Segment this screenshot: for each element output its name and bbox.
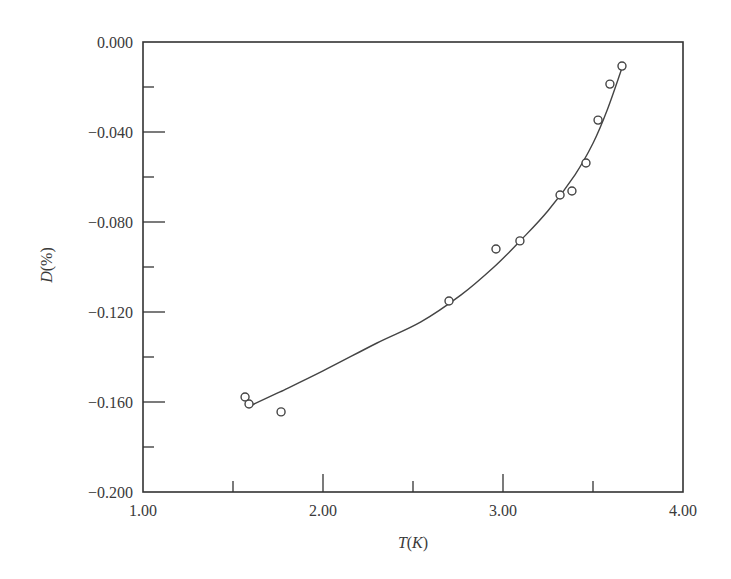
data-point-marker — [277, 408, 285, 416]
data-point-marker — [445, 297, 453, 305]
data-point-marker — [516, 237, 524, 245]
data-point-marker — [492, 245, 500, 253]
x-axis-ticks: 1.002.003.004.00 — [129, 474, 697, 519]
y-tick-label: −0.160 — [88, 394, 133, 411]
y-tick-label: 0.000 — [97, 34, 133, 51]
x-tick-label: 2.00 — [309, 502, 337, 519]
fit-curve-path — [250, 68, 622, 406]
data-point-marker — [556, 191, 564, 199]
data-point-marker — [245, 400, 253, 408]
x-tick-label: 1.00 — [129, 502, 157, 519]
y-tick-label: −0.080 — [88, 214, 133, 231]
y-tick-label: −0.200 — [88, 484, 133, 501]
data-point-marker — [606, 80, 614, 88]
y-axis-label: D(%) — [38, 247, 56, 284]
data-point-marker — [568, 187, 576, 195]
y-axis-ticks: 0.000−0.040−0.080−0.120−0.160−0.200 — [88, 34, 165, 501]
y-tick-label: −0.040 — [88, 124, 133, 141]
plot-frame — [143, 42, 683, 492]
chart: 0.000−0.040−0.080−0.120−0.160−0.200 1.00… — [0, 0, 731, 579]
data-points — [241, 62, 626, 416]
y-tick-label: −0.120 — [88, 304, 133, 321]
data-point-marker — [594, 116, 602, 124]
fit-curve — [250, 68, 622, 406]
data-point-marker — [618, 62, 626, 70]
data-point-marker — [582, 159, 590, 167]
plot-border — [143, 42, 683, 492]
x-axis-label: T(K) — [398, 534, 428, 552]
x-tick-label: 4.00 — [669, 502, 697, 519]
x-tick-label: 3.00 — [489, 502, 517, 519]
